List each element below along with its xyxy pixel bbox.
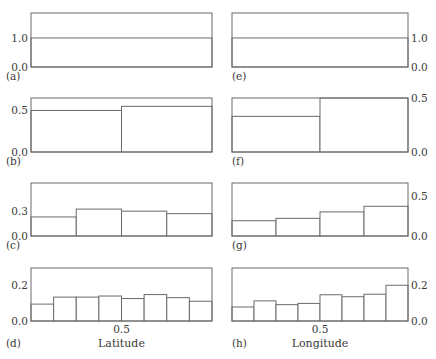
panel-g: 0.00.5(g) (232, 183, 428, 251)
histogram-bar (122, 211, 167, 236)
y-tick-label: 0.2 (411, 279, 428, 291)
panel-label: (a) (6, 70, 20, 82)
histogram-bar (386, 285, 408, 321)
histogram-bar (31, 217, 76, 236)
x-axis-title: Longitude (292, 337, 349, 350)
histogram-bar (232, 307, 254, 321)
y-tick-label: 1.0 (411, 32, 428, 44)
panel-label: (e) (232, 70, 246, 82)
histogram-bar (298, 303, 320, 321)
y-tick-label: 0.0 (411, 315, 428, 327)
histogram-bar (320, 295, 342, 321)
histogram-bar (320, 212, 364, 236)
histogram-bar (167, 214, 212, 236)
histogram-bar (232, 38, 408, 67)
panel-label: (d) (6, 337, 21, 349)
histogram-bar (320, 98, 408, 152)
histogram-bar (364, 206, 408, 236)
y-tick-label: 0.5 (411, 190, 428, 202)
y-tick-label: 0.5 (411, 92, 428, 104)
panel-label: (c) (6, 239, 20, 251)
histogram-bar (232, 116, 320, 152)
histogram-bar (189, 301, 212, 321)
histogram-bar (31, 110, 122, 152)
y-tick-label: 0.5 (11, 104, 28, 116)
histogram-bar (76, 209, 121, 236)
panel-e: 0.01.0(e) (232, 13, 428, 82)
panel-label: (f) (232, 155, 244, 167)
histogram-bar (144, 295, 167, 321)
y-tick-label: 0.0 (411, 230, 428, 242)
panel-label: (g) (232, 239, 247, 251)
histogram-bar (254, 301, 276, 321)
histogram-bar (99, 296, 122, 321)
histogram-bar (54, 297, 77, 321)
histogram-bar (122, 299, 145, 321)
histogram-grid-figure: 0.01.0(a)0.00.5(b)0.00.3(c)0.00.20.5(d)L… (0, 0, 436, 359)
histogram-bar (364, 294, 386, 321)
panel-a: 0.01.0(a) (6, 13, 212, 82)
histogram-bar (167, 298, 190, 321)
x-tick-label: 0.5 (312, 323, 329, 335)
y-tick-label: 1.0 (11, 32, 28, 44)
x-tick-label: 0.5 (113, 323, 130, 335)
panel-c: 0.00.3(c) (6, 183, 212, 251)
y-tick-label: 0.0 (411, 146, 428, 158)
panel-label: (h) (232, 337, 247, 349)
y-tick-label: 0.3 (11, 205, 28, 217)
histogram-bar (276, 305, 298, 321)
histogram-bar (276, 218, 320, 236)
histogram-bar (122, 106, 213, 152)
histogram-bar (232, 221, 276, 236)
histogram-bar (31, 38, 212, 67)
x-axis-title: Latitude (98, 337, 145, 350)
panel-label: (b) (6, 155, 21, 167)
panel-h: 0.00.20.5(h)Longitude (232, 268, 428, 350)
y-tick-label: 0.2 (11, 279, 28, 291)
panel-d: 0.00.20.5(d)Latitude (6, 268, 212, 350)
histogram-bar (76, 297, 99, 321)
histogram-bar (31, 304, 54, 321)
y-tick-label: 0.0 (411, 61, 428, 73)
y-tick-label: 0.0 (11, 315, 28, 327)
panel-b: 0.00.5(b) (6, 98, 212, 167)
panel-f: 0.00.5(f) (232, 92, 428, 167)
histogram-bar (342, 297, 364, 321)
histogram-grid-svg: 0.01.0(a)0.00.5(b)0.00.3(c)0.00.20.5(d)L… (0, 0, 436, 359)
